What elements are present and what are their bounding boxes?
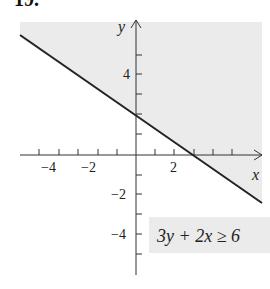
shaded-region — [20, 22, 262, 203]
inequality-graph: y x −4 −2 2 4 −2 −4 3y + 2x ≥ 6 — [0, 0, 270, 289]
x-tick-label-neg2: −2 — [81, 160, 96, 175]
y-tick-label-neg4: −4 — [111, 227, 126, 242]
y-axis-label: y — [116, 18, 126, 36]
x-tick-label-2: 2 — [170, 160, 177, 175]
x-axis-label: x — [251, 166, 259, 183]
y-tick-label-4: 4 — [123, 67, 130, 82]
x-tick-label-neg4: −4 — [41, 160, 56, 175]
y-tick-label-neg2: −2 — [111, 187, 126, 202]
inequality-label: 3y + 2x ≥ 6 — [156, 226, 240, 246]
